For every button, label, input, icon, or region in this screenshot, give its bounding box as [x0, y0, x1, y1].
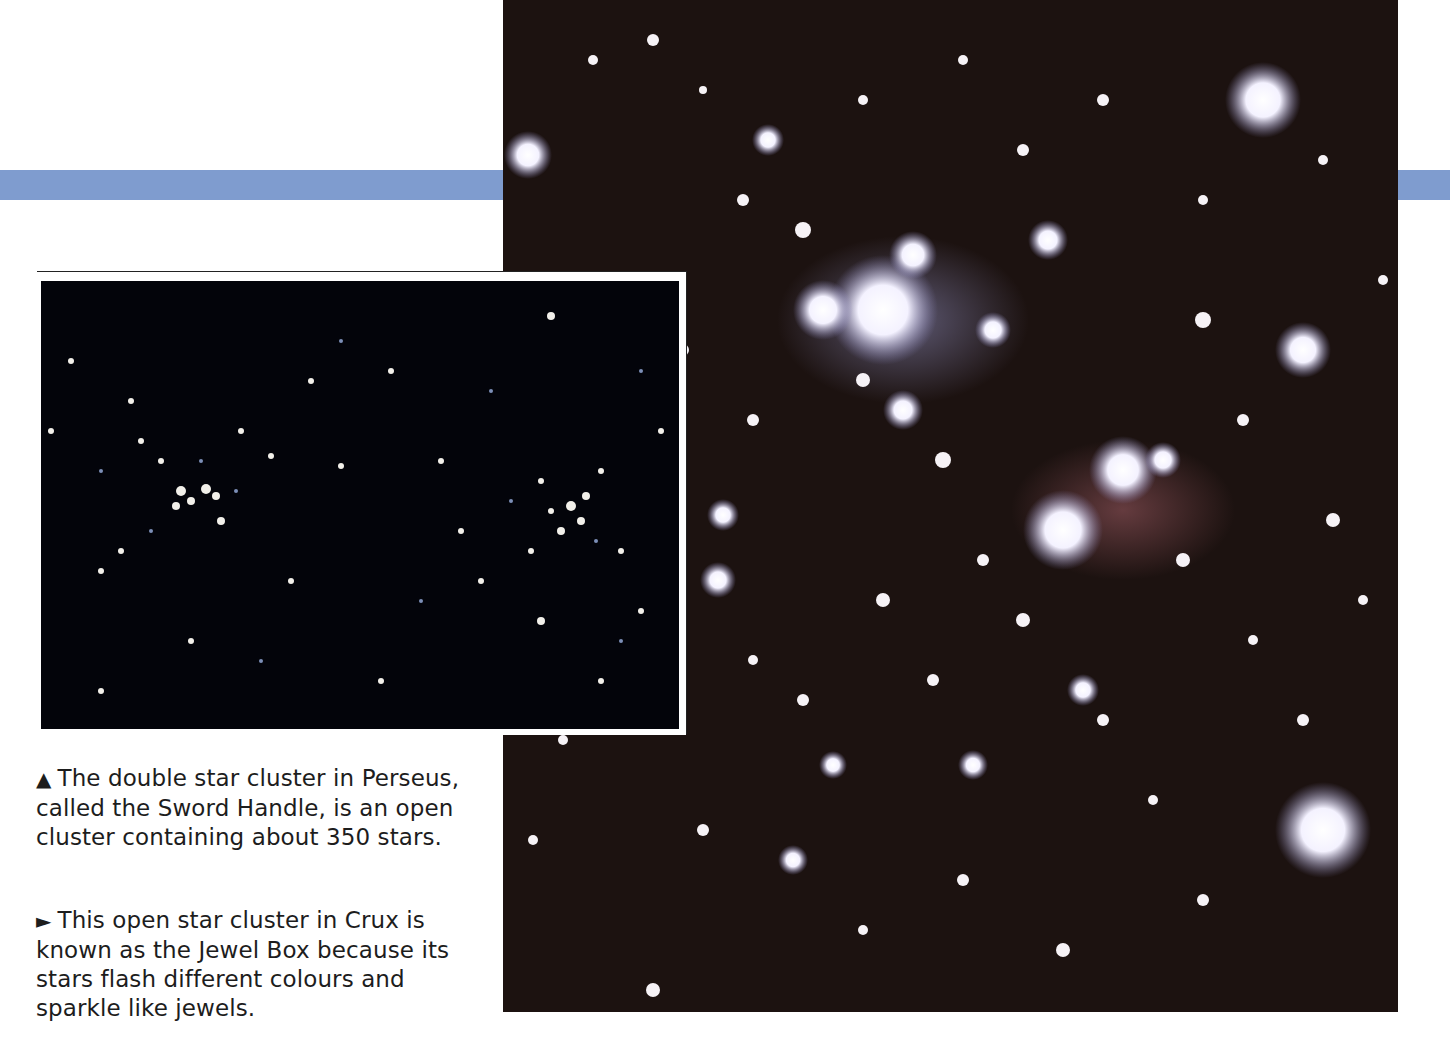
caption-text: This open star cluster in Crux is known …	[36, 907, 449, 1021]
starfield-icon	[41, 281, 679, 729]
accent-band-right	[1398, 170, 1450, 200]
caption-perseus: ▲The double star cluster in Perseus, cal…	[36, 764, 486, 852]
accent-band-left	[0, 170, 503, 200]
perseus-double-cluster-photo	[41, 281, 679, 729]
caption-jewel-box: ►This open star cluster in Crux is known…	[36, 906, 486, 1023]
triangle-right-icon: ►	[36, 909, 51, 933]
caption-text: The double star cluster in Perseus, call…	[36, 765, 459, 850]
triangle-up-icon: ▲	[36, 767, 51, 791]
